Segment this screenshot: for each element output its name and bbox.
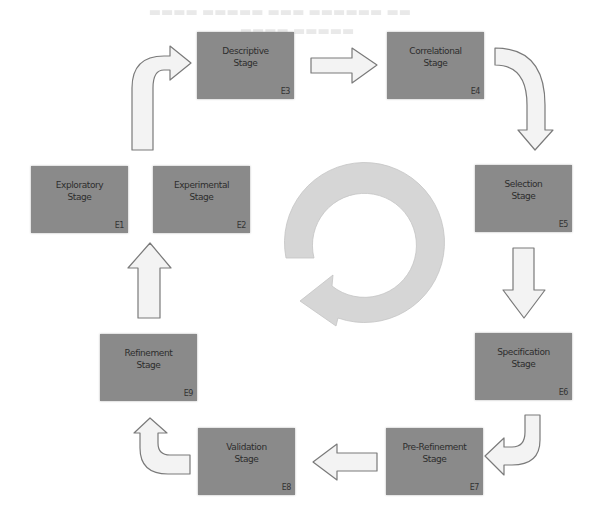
stage-subtitle: Stage [233,58,257,68]
stage-code: E4 [471,87,480,96]
stage-box-exploratory: ExploratoryStage E1 [31,166,128,233]
stage-box-validation: ValidationStage E8 [198,428,295,495]
stage-code: E7 [470,483,479,492]
arrow-right-icon [311,48,377,83]
stage-title: Descriptive [222,46,269,56]
stage-code: E9 [184,389,193,398]
stage-box-specification: SpecificationStage E6 [475,333,572,400]
diagram-canvas [0,0,606,525]
stage-code: E6 [559,388,568,397]
stage-subtitle: Stage [234,454,258,464]
arrow-down-icon [503,248,545,318]
stage-box-selection: SelectionStage E5 [475,165,572,232]
stage-subtitle: Stage [136,360,160,370]
stage-box-experimental: ExperimentalStage E2 [153,166,250,233]
stage-subtitle: Stage [189,192,213,202]
hook-arrow-down-left-icon [485,415,540,475]
stage-box-pre-refinement: Pre-RefinementStage E7 [386,428,483,495]
stage-title: Validation [226,442,266,452]
stage-code: E1 [115,221,124,230]
stage-box-descriptive: DescriptiveStage E3 [197,32,294,99]
stage-title: Experimental [174,180,229,190]
stage-code: E5 [559,220,568,229]
curved-arrow-right-down-icon [495,48,553,150]
stage-subtitle: Stage [511,359,535,369]
stage-title: Exploratory [56,180,104,190]
stage-title: Correlational [409,46,461,56]
stage-title: Pre-Refinement [403,442,467,452]
stage-title: Selection [505,179,543,189]
stage-box-refinement: RefinementStage E9 [100,334,197,401]
arrow-up-icon [128,243,171,318]
stage-subtitle: Stage [67,192,91,202]
arrow-left-icon [313,444,377,480]
hook-arrow-left-up-icon [134,418,190,474]
stage-subtitle: Stage [423,58,447,68]
stage-subtitle: Stage [422,454,446,464]
stage-box-correlational: CorrelationalStage E4 [387,32,484,99]
stage-code: E8 [282,483,291,492]
stage-code: E3 [281,87,290,96]
stage-title: Refinement [125,348,173,358]
stage-subtitle: Stage [511,191,535,201]
cycle-arrow-icon [284,163,444,326]
bent-arrow-up-right-icon [132,46,191,150]
stage-code: E2 [237,221,246,230]
stage-title: Specification [497,347,550,357]
